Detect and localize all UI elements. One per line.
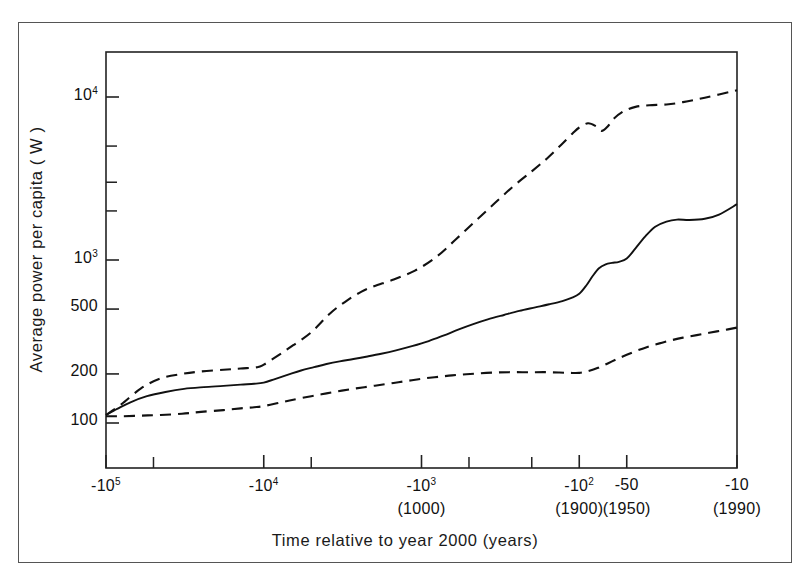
figure-container: 104103500200100-105-104-103(1000)-102(19… [0,0,810,588]
x-tick-year-5: (1990) [697,500,777,518]
x-tick-year-2: (1000) [382,500,462,518]
data-series-group [106,90,737,416]
series-line-upper-bound [106,90,737,415]
series-line-best-estimate [106,204,737,415]
x-tick-year-4: (1950) [587,500,667,518]
y-tick-label-0: 104 [28,85,98,104]
y-tick-label-4: 100 [28,411,98,429]
axes-frame [106,52,737,468]
y-axis-title: Average power per capita ( W ) [27,120,46,380]
series-line-lower-bound [106,328,737,417]
x-tick-label-5: -10 [697,476,777,494]
x-tick-label-1: -104 [224,476,304,495]
x-tick-label-2: -103 [382,476,462,495]
x-axis-title: Time relative to year 2000 (years) [0,531,810,550]
x-tick-label-4: -50 [587,476,667,494]
x-tick-label-0: -105 [66,476,146,495]
